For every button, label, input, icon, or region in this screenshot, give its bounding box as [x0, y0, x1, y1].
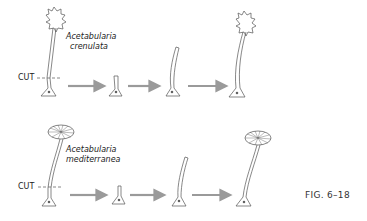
species-label-mediterranea: Acetabularia mediterranea: [66, 145, 120, 165]
species-genus: Acetabularia: [66, 32, 117, 42]
mediterranea-stage-3: [172, 157, 188, 206]
crenulata-regenerated: [229, 11, 256, 97]
species-epithet: crenulata: [66, 42, 117, 52]
crenulata-stage-2: [109, 76, 122, 96]
species-genus: Acetabularia: [66, 145, 120, 155]
cut-label: CUT: [18, 182, 34, 191]
row-crenulata: [37, 7, 256, 97]
mediterranea-regenerated: [236, 131, 271, 206]
row-mediterranea: [38, 125, 271, 206]
crenulata-whole-cell: [41, 7, 66, 96]
mediterranea-stage-2: [112, 186, 125, 204]
mediterranea-whole-cell: [42, 125, 74, 206]
crenulata-stage-3: [166, 47, 180, 96]
species-label-crenulata: Acetabularia crenulata: [66, 32, 117, 52]
species-epithet: mediterranea: [66, 155, 120, 165]
figure-caption: FIG. 6–18: [305, 190, 350, 200]
cut-label: CUT: [18, 73, 34, 82]
regeneration-diagram: [0, 0, 367, 221]
